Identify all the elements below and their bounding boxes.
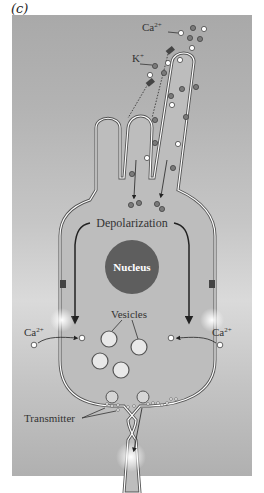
calcium-right-label: Ca2+	[212, 326, 232, 338]
nucleus-label: Nucleus	[113, 261, 151, 273]
calcium-left-label: Ca2+	[24, 326, 44, 338]
calcium-top-line	[168, 32, 178, 33]
vesicles-label: Vesicles	[111, 308, 147, 320]
potassium-line	[140, 64, 152, 65]
potassium-label: K+	[132, 52, 144, 64]
glow-bottom	[116, 442, 146, 472]
hair-cell-diagram: Depolarization Nucleus Vesicles	[0, 0, 264, 493]
transmitter-lines	[82, 408, 116, 418]
glow-left	[50, 308, 74, 332]
depolarization-label: Depolarization	[96, 216, 167, 230]
transmitter-label: Transmitter	[24, 412, 75, 424]
calcium-top-label: Ca2+	[142, 21, 162, 33]
